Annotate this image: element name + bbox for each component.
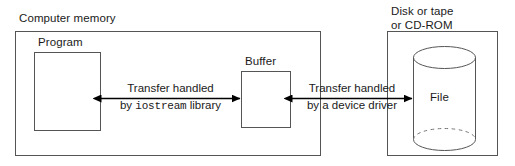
iostream-label-suffix: library [187,99,222,111]
program-label: Program [38,36,83,49]
iostream-label-prefix: by [120,99,135,111]
io-transfer-diagram: Computer memory Program Buffer Disk or t… [0,0,515,166]
device-driver-transfer-label-line2: by a device driver [292,99,412,112]
storage-device-label-line1: Disk or tape [391,5,454,18]
iostream-code-token: iostream [135,100,186,112]
storage-device-label-line2: or CD-ROM [391,19,453,32]
buffer-box [242,72,291,128]
buffer-label: Buffer [245,55,276,68]
program-box [35,53,101,131]
file-label: File [430,91,449,104]
computer-memory-label: Computer memory [19,12,116,25]
iostream-transfer-label-line2: by iostream library [101,99,240,113]
iostream-transfer-label-line1: Transfer handled [101,82,240,95]
device-driver-transfer-label-line1: Transfer handled [292,82,412,95]
